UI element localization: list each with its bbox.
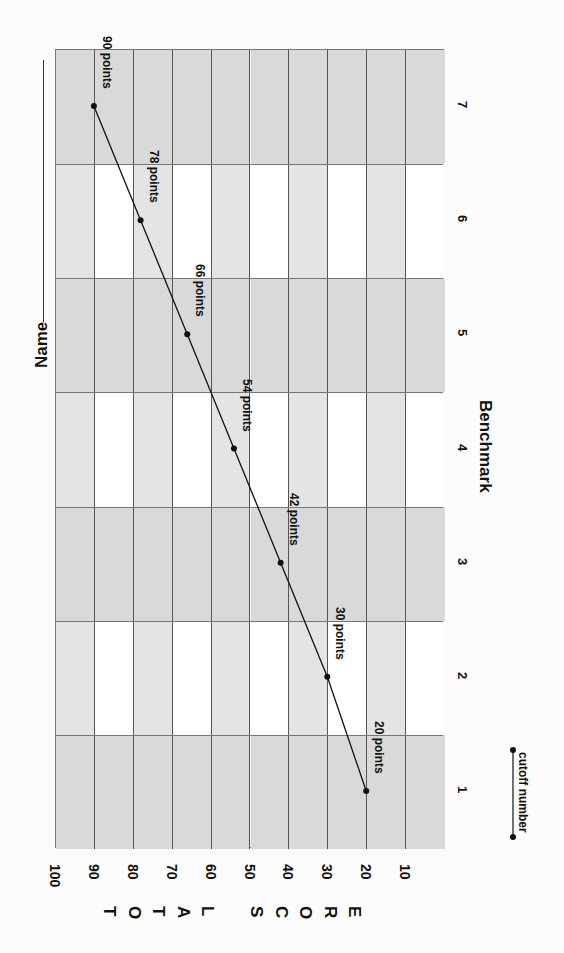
score-axis-letter: T xyxy=(99,906,119,916)
cutoff-line xyxy=(94,106,366,791)
score-axis-letter: R xyxy=(320,906,340,918)
data-point-label: 42 points xyxy=(287,493,301,546)
data-point-label: 78 points xyxy=(147,150,161,203)
score-axis-letter: T xyxy=(148,906,168,916)
data-point xyxy=(184,331,190,337)
score-tick-label: 60 xyxy=(203,864,219,880)
score-axis-letter: O xyxy=(124,906,144,919)
benchmark-tick-label: 1 xyxy=(455,786,470,793)
benchmark-tick-label: 5 xyxy=(455,329,470,336)
score-tick-label: 80 xyxy=(125,864,141,880)
score-axis-letter: A xyxy=(173,906,193,918)
data-point xyxy=(324,674,330,680)
benchmark-tick-label: 2 xyxy=(455,672,470,679)
score-tick-label: 50 xyxy=(242,864,258,880)
score-tick-label: 70 xyxy=(164,864,180,880)
score-axis-letter: O xyxy=(295,906,315,919)
data-point xyxy=(363,788,369,794)
score-axis-letter: S xyxy=(246,906,266,917)
data-point xyxy=(91,103,97,109)
legend-label: cutoff number xyxy=(516,752,530,833)
benchmark-tick-label: 3 xyxy=(455,558,470,565)
score-axis-letter: E xyxy=(344,906,364,917)
data-point-label: 20 points xyxy=(372,721,386,774)
benchmark-tick-label: 6 xyxy=(455,215,470,222)
benchmark-tick-label: 4 xyxy=(455,444,470,451)
data-point-label: 90 points xyxy=(100,36,114,89)
score-tick-label: 10 xyxy=(397,864,413,880)
data-point-label: 66 points xyxy=(193,264,207,317)
data-point xyxy=(138,217,144,223)
benchmark-axis-title: Benchmark xyxy=(475,400,495,493)
benchmark-tick-label: 7 xyxy=(455,101,470,108)
score-tick-label: 100 xyxy=(47,864,63,887)
score-tick-label: 40 xyxy=(280,864,296,880)
data-point xyxy=(278,560,284,566)
score-axis-letter: C xyxy=(271,906,291,918)
score-tick-label: 20 xyxy=(358,864,374,880)
data-point-label: 54 points xyxy=(240,379,254,432)
score-tick-label: 90 xyxy=(86,864,102,880)
data-point-label: 30 points xyxy=(333,607,347,660)
score-axis-letter: L xyxy=(197,906,217,916)
data-point xyxy=(231,446,237,452)
score-tick-label: 30 xyxy=(319,864,335,880)
